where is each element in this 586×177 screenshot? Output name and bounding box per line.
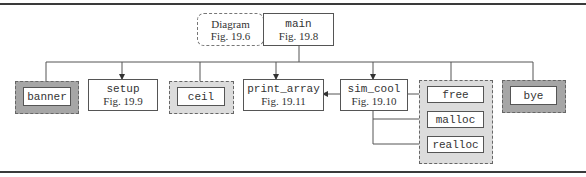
bye-node-label: bye: [524, 90, 544, 102]
print-array-node: print_array Fig. 19.11: [243, 79, 324, 111]
realloc-node: realloc: [427, 136, 484, 153]
main-node: main Fig. 19.8: [263, 13, 334, 46]
malloc-node: malloc: [427, 111, 484, 128]
sim-cool-node: sim_cool Fig. 19.10: [340, 79, 408, 111]
ceil-node: ceil: [177, 87, 225, 106]
free-node: free: [427, 86, 484, 103]
banner-node: banner: [23, 87, 71, 106]
diagram-node-fig: Fig. 19.6: [211, 30, 250, 42]
setup-node-fig: Fig. 19.9: [103, 95, 142, 107]
diagram-node-title: Diagram: [211, 18, 249, 30]
bye-node: bye: [510, 86, 557, 105]
banner-node-label: banner: [27, 91, 67, 103]
print-array-node-fig: Fig. 19.11: [261, 95, 306, 107]
main-node-fig: Fig. 19.8: [279, 30, 318, 42]
print-array-node-title: print_array: [247, 83, 320, 95]
sim-cool-node-title: sim_cool: [348, 83, 401, 95]
diagram-node: Diagram Fig. 19.6: [197, 13, 264, 46]
setup-node: setup Fig. 19.9: [88, 79, 158, 111]
malloc-node-label: malloc: [436, 114, 476, 126]
setup-node-title: setup: [106, 83, 139, 95]
free-node-label: free: [442, 89, 468, 101]
ceil-node-label: ceil: [188, 91, 214, 103]
main-node-title: main: [285, 18, 311, 30]
realloc-node-label: realloc: [432, 139, 478, 151]
sim-cool-node-fig: Fig. 19.10: [352, 95, 397, 107]
